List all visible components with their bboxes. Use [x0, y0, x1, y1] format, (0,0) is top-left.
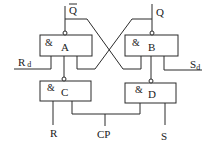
gate-a-and-symbol: & — [45, 37, 53, 48]
gate-b-output-bubble — [150, 31, 154, 35]
q-label: Q — [156, 6, 164, 18]
s-label: S — [161, 130, 167, 142]
gate-a-output-bubble — [63, 31, 67, 35]
gate-d: & D — [125, 79, 176, 103]
rd-label: Rd — [18, 56, 31, 69]
gate-b-label: B — [148, 41, 155, 53]
gate-b-and-symbol: & — [132, 37, 140, 48]
r-input: R — [50, 101, 58, 139]
gate-a-input-right — [77, 56, 95, 69]
gate-d-label: D — [148, 88, 156, 100]
sd-label: Sd — [190, 58, 200, 72]
gate-b: & B — [125, 31, 178, 56]
r-label: R — [50, 127, 58, 139]
cp-input: CP — [72, 101, 140, 140]
q-bar-label: Q — [69, 4, 77, 16]
gate-c-label: C — [61, 86, 68, 98]
sd-input: Sd — [164, 56, 202, 72]
gate-c-and-symbol: & — [47, 82, 55, 93]
gate-d-and-symbol: & — [135, 84, 143, 95]
cp-label: CP — [97, 128, 110, 140]
gate-a-label: A — [61, 41, 69, 53]
gate-d-output-bubble — [149, 79, 153, 83]
gate-b-input-left — [123, 56, 141, 69]
gate-a: & A — [40, 31, 92, 56]
s-input: S — [161, 103, 167, 142]
gate-c-output-bubble — [62, 77, 66, 81]
gate-c: & C — [40, 77, 91, 101]
rs-flip-flop-diagram: & A & B & C & D Q Q Rd — [0, 0, 214, 155]
rd-input: Rd — [14, 56, 51, 69]
